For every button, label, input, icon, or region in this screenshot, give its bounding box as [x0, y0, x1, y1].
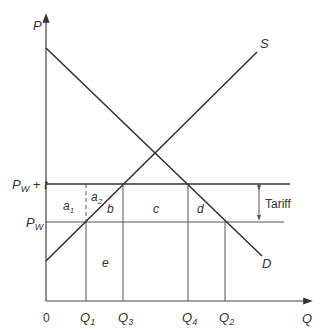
area-d-label: d [197, 202, 204, 216]
q3-label: Q3 [118, 310, 133, 327]
area-a2-label: a2 [91, 190, 103, 206]
tariff-label: Tariff [265, 197, 291, 211]
q4-label: Q4 [182, 310, 197, 327]
pw-label: PW [26, 215, 45, 232]
area-a1-label: a1 [63, 199, 74, 215]
demand-label: D [262, 256, 271, 271]
q1-label: Q1 [80, 310, 95, 327]
y-axis-label: P [33, 18, 42, 33]
tariff-diagram: P Q 0 PW + t PW S D Q1 Q3 Q4 Q2 a1 a2 b … [0, 0, 326, 331]
pw-plus-t-label: PW + t [12, 177, 49, 194]
q2-label: Q2 [219, 310, 234, 327]
area-b-label: b [107, 202, 114, 216]
area-c-label: c [153, 202, 159, 216]
area-e-label: e [102, 256, 109, 270]
supply-label: S [260, 36, 269, 51]
origin-label: 0 [43, 311, 50, 325]
x-axis-label: Q [302, 311, 312, 326]
